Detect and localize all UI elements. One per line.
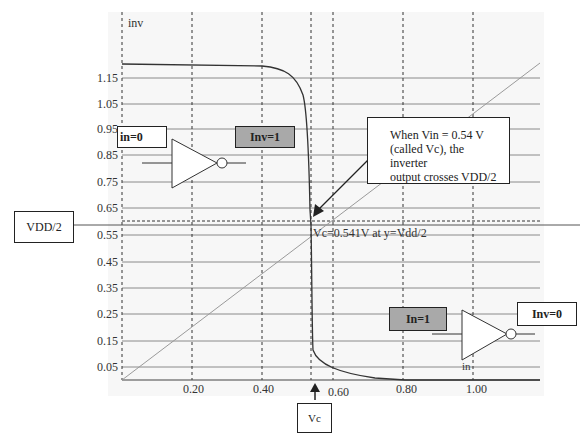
y-tick: 0.85 [78,148,118,163]
y-tick: 1.15 [78,71,118,86]
callout-box: When Vin = 0.54 V (called Vc), the inver… [367,117,510,184]
left-input-label: in=0 [120,130,143,145]
callout-line-3: output crosses VDD/2 [390,170,499,184]
vdd-half-label-box: VDD/2 [14,211,74,243]
y-tick: 0.15 [78,334,118,349]
x-tick: 0.60 [328,385,349,400]
vc-label-box: Vc [297,403,332,433]
right-input-pin-label: in [462,360,471,372]
vdd-half-label: VDD/2 [26,220,61,235]
chart-canvas [0,0,588,445]
vc-label: Vc [308,412,321,424]
y-tick: 0.35 [78,281,118,296]
y-tick: 0.55 [78,228,118,243]
y-axis-label: inv [128,16,143,31]
y-tick: 0.75 [78,175,118,190]
y-tick: 0.25 [78,307,118,322]
callout-arrow-line [318,160,368,210]
y-tick: 0.65 [78,201,118,216]
callout-line-1: When Vin = 0.54 V [390,128,499,142]
x-tick: 1.00 [466,382,487,397]
y-tick: 0.95 [78,122,118,137]
vc-value-label: Vc=0.541V at y=Vdd/2 [313,226,427,241]
callout-line-2: (called Vc), the inverter [390,142,499,170]
right-input-label: In=1 [406,312,430,327]
left-input-box: in=0 [117,126,167,148]
x-tick: 0.20 [183,382,204,397]
y-tick: 0.05 [78,360,118,375]
right-output-label: Inv=0 [532,307,562,322]
right-input-box: In=1 [389,307,447,331]
y-tick: 1.05 [78,97,118,112]
x-tick: 0.40 [253,382,274,397]
left-output-box: Inv=1 [235,126,295,148]
y-tick: 0.45 [78,255,118,270]
left-output-label: Inv=1 [250,130,280,145]
right-output-box: Inv=0 [517,302,577,326]
vc-arrow-up-icon [310,383,320,392]
x-tick: 0.80 [396,382,417,397]
